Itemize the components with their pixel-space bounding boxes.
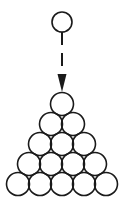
dashed-down-arrow (58, 32, 67, 92)
falling-circle-stack-diagram (0, 0, 124, 207)
stack-circle (40, 153, 63, 176)
stack-circle (84, 153, 107, 176)
stack-circle (51, 173, 74, 196)
stack-circle (51, 93, 74, 116)
stack-circle (95, 173, 118, 196)
falling-circle-group (52, 12, 72, 32)
stack-circle (51, 133, 74, 156)
arrowhead-icon (58, 74, 67, 92)
stack-circle (73, 133, 96, 156)
stack-circle (29, 173, 52, 196)
stack-circle (40, 113, 63, 136)
stack-circle (29, 133, 52, 156)
stack-circle (18, 153, 41, 176)
falling-circle (52, 12, 72, 32)
stack-circle (73, 173, 96, 196)
stack-circle (62, 113, 85, 136)
stack-circle (7, 173, 30, 196)
stack-circle (62, 153, 85, 176)
triangular-circle-stack (7, 93, 118, 196)
